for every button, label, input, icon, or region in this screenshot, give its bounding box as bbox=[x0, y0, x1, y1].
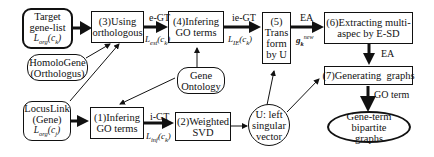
u-vector-line3: vector bbox=[256, 131, 282, 142]
step4-line1: (4)Infering bbox=[173, 16, 219, 27]
edge-math-l-ie: LIE(ck) bbox=[228, 34, 252, 48]
step7-generating-graphs: (7)Generating graphs bbox=[324, 66, 413, 85]
step1-line1: (1)Infering bbox=[94, 112, 140, 123]
bipartite-line1: Gene-term bipartite bbox=[329, 111, 409, 133]
gene-ontology-line1: Gene bbox=[190, 70, 212, 81]
locuslink-node: LocusLink (Gene) Lorg(cj) bbox=[23, 101, 71, 141]
bipartite-line2: graphs bbox=[355, 133, 383, 144]
step6-line2: aspec by E-SD bbox=[337, 28, 399, 39]
target-math: Lorg(ck) bbox=[34, 33, 62, 47]
step3-line2: orthologous bbox=[92, 27, 142, 38]
step4-infering-go-terms: (4)Infering GO terms bbox=[168, 11, 224, 43]
edge-math-l-est: Lest(ck) bbox=[145, 34, 170, 48]
target-gene-list-node: Target gene-list Lorg(ck) bbox=[22, 8, 73, 49]
step1-line2: GO terms bbox=[96, 123, 137, 134]
gene-ontology-node: Gene Ontology bbox=[177, 67, 225, 94]
homologene-line1: HomoloGene bbox=[29, 57, 86, 68]
edge-label-ie-gt: ie-GT bbox=[232, 13, 256, 23]
edge-label-i-gt: i-GT bbox=[150, 112, 169, 122]
step3-line1: (3)Using bbox=[99, 16, 136, 27]
step3-using-orthologous: (3)Using orthologous bbox=[91, 11, 144, 43]
step5-line1: (5) bbox=[270, 16, 282, 27]
edge-label-ea-down: EA bbox=[381, 49, 394, 59]
step5-transform-by-u: (5) Trans form by U bbox=[262, 12, 291, 64]
homologene-line2: (Orthologus) bbox=[30, 68, 84, 79]
step2-weighted-svd: (2)Weighted SVD bbox=[175, 112, 231, 141]
edge-math-g-new: gknew bbox=[296, 32, 313, 49]
edge-label-e-gt: e-GT bbox=[149, 13, 170, 23]
locuslink-line1: LocusLink bbox=[24, 103, 70, 114]
u-left-singular-vector-node: U: left singular vector bbox=[248, 104, 290, 146]
gene-ontology-line2: Ontology bbox=[181, 81, 221, 92]
locuslink-math: Lorg(cj) bbox=[34, 125, 60, 139]
step2-line1: (2)Weighted bbox=[177, 116, 229, 127]
target-line2: gene-list bbox=[29, 22, 65, 33]
u-vector-line1: U: left bbox=[255, 109, 282, 120]
step5-line4: by U bbox=[266, 49, 287, 60]
gene-term-bipartite-graphs-node: Gene-term bipartite graphs bbox=[327, 111, 411, 143]
step5-line3: form bbox=[266, 38, 286, 49]
step1-infering-go-terms: (1)Infering GO terms bbox=[90, 107, 144, 139]
edge-math-l-inf: Linf(ck) bbox=[146, 131, 171, 145]
step6-extracting-multi-aspec: (6)Extracting multi- aspec by E-SD bbox=[324, 12, 413, 44]
edge-label-go-term: GO term bbox=[374, 90, 409, 100]
u-vector-line2: singular bbox=[252, 120, 286, 131]
step2-line2: SVD bbox=[192, 127, 213, 138]
homologene-node: HomoloGene (Orthologus) bbox=[27, 54, 88, 81]
step4-line2: GO terms bbox=[175, 27, 216, 38]
locuslink-line2: (Gene) bbox=[32, 114, 61, 125]
step7-line1: (7)Generating graphs bbox=[322, 70, 414, 81]
step6-line1: (6)Extracting multi- bbox=[326, 17, 410, 28]
edge-label-ea-top: EA bbox=[300, 13, 313, 23]
target-line1: Target bbox=[34, 11, 60, 22]
step5-line2: Trans bbox=[265, 27, 289, 38]
